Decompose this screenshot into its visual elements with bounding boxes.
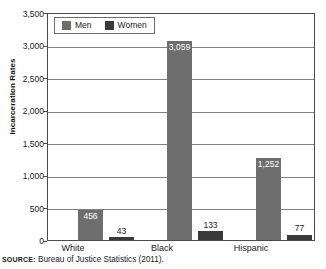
bar-hispanic-women[interactable]: 77: [287, 235, 312, 240]
legend-swatch-men-icon: [62, 21, 71, 30]
bar-white-men[interactable]: 456: [78, 210, 103, 240]
bar-black-men[interactable]: 3,059: [167, 41, 192, 240]
bar-value-white-men: 456: [78, 212, 103, 221]
legend-label-men: Men: [75, 21, 92, 30]
x-tick-label-white: White: [28, 244, 118, 253]
bar-white-women[interactable]: 43: [109, 237, 134, 240]
chart-legend: Men Women: [54, 17, 155, 34]
legend-swatch-women-icon: [105, 21, 114, 30]
legend-item-women[interactable]: Women: [105, 21, 147, 30]
legend-item-men[interactable]: Men: [62, 21, 92, 30]
source-note: SOURCE: Bureau of Justice Statistics (20…: [2, 256, 164, 264]
source-prefix: SOURCE:: [2, 256, 36, 263]
bar-value-black-women: 133: [189, 221, 232, 230]
bar-value-black-men: 3,059: [167, 43, 192, 52]
bar-value-hispanic-women: 77: [278, 224, 321, 233]
y-tick-label-3000: 3,000: [4, 42, 44, 51]
bar-value-hispanic-men: 1,252: [256, 160, 281, 169]
bar-value-white-women: 43: [100, 227, 143, 236]
incarceration-rates-bar-chart: Incarceration Rates 3,500 3,000 2,500 2,…: [0, 0, 326, 269]
y-tick-label-1500: 1,500: [4, 140, 44, 149]
bar-black-women[interactable]: 133: [198, 231, 223, 240]
source-text: Bureau of Justice Statistics (2011).: [38, 255, 164, 264]
y-tick-label-500: 500: [4, 205, 44, 214]
x-tick-label-black: Black: [117, 244, 207, 253]
y-tick-mark-0: [43, 241, 47, 242]
legend-label-women: Women: [118, 21, 147, 30]
y-tick-label-3500: 3,500: [4, 10, 44, 19]
y-tick-label-2000: 2,000: [4, 107, 44, 116]
plot-area: 456 43 3,059 133 1,252 77: [47, 13, 315, 241]
x-tick-label-hispanic: Hispanic: [206, 244, 296, 253]
y-tick-label-2500: 2,500: [4, 75, 44, 84]
y-tick-label-1000: 1,000: [4, 172, 44, 181]
